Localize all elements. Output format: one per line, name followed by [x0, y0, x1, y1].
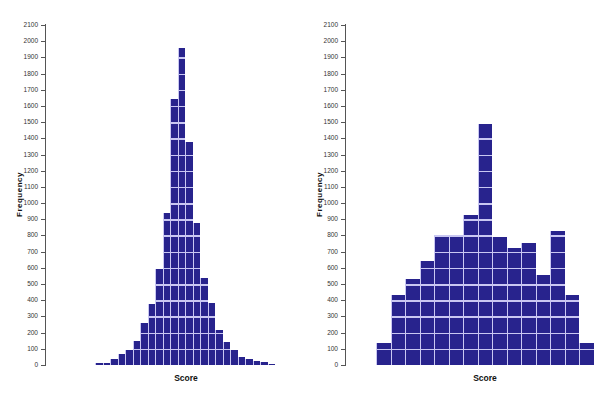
histogram-bar — [185, 142, 193, 365]
y-tick — [341, 155, 345, 156]
histogram-bar — [170, 99, 178, 365]
y-axis — [345, 24, 346, 366]
y-tick-label: 600 — [8, 264, 38, 272]
y-tick — [41, 90, 45, 91]
y-tick — [41, 138, 45, 139]
y-tick — [341, 57, 345, 58]
y-tick — [41, 187, 45, 188]
histogram-bar — [579, 343, 594, 365]
y-tick — [341, 25, 345, 26]
y-tick — [41, 57, 45, 58]
y-tick — [41, 300, 45, 301]
y-tick — [41, 268, 45, 269]
histogram-bar — [148, 304, 156, 365]
histogram-bar — [200, 278, 208, 365]
histogram-bar — [178, 48, 186, 365]
y-tick-label: 700 — [308, 248, 338, 256]
y-tick-label: 1400 — [308, 134, 338, 142]
y-tick-label: 2000 — [308, 37, 338, 45]
y-tick-label: 1300 — [308, 151, 338, 159]
y-tick-label: 1000 — [308, 199, 338, 207]
y-tick — [341, 316, 345, 317]
y-tick — [41, 25, 45, 26]
histogram-bar — [110, 359, 118, 365]
y-tick — [341, 252, 345, 253]
histogram-bar — [140, 323, 148, 365]
y-tick-label: 1900 — [308, 53, 338, 61]
histogram-bar — [118, 354, 126, 365]
y-tick-label: 0 — [8, 361, 38, 369]
y-tick-label: 1500 — [308, 118, 338, 126]
histogram-bar — [245, 359, 253, 365]
y-tick-label: 1200 — [308, 167, 338, 175]
histogram-bar — [260, 362, 268, 365]
y-tick-label: 200 — [308, 329, 338, 337]
y-tick — [41, 171, 45, 172]
histogram-bar — [405, 279, 420, 365]
y-tick-label: 1200 — [8, 167, 38, 175]
y-tick — [41, 235, 45, 236]
y-tick — [41, 122, 45, 123]
y-axis — [45, 24, 46, 366]
histogram-bar — [193, 223, 201, 365]
y-tick-label: 2100 — [8, 21, 38, 29]
x-axis-label: Score — [174, 373, 198, 383]
y-tick-label: 500 — [8, 280, 38, 288]
y-tick — [341, 41, 345, 42]
histogram-bar — [215, 330, 223, 365]
y-tick-label: 1600 — [308, 102, 338, 110]
y-tick — [41, 203, 45, 204]
y-tick-label: 1900 — [8, 53, 38, 61]
y-tick-label: 600 — [308, 264, 338, 272]
y-tick — [341, 235, 345, 236]
y-tick-label: 400 — [8, 296, 38, 304]
y-tick-label: 1300 — [8, 151, 38, 159]
y-tick — [341, 138, 345, 139]
histogram-bar — [253, 361, 261, 365]
y-tick — [341, 122, 345, 123]
y-tick-label: 400 — [308, 296, 338, 304]
y-tick — [341, 219, 345, 220]
y-tick-label: 0 — [308, 361, 338, 369]
y-tick — [41, 349, 45, 350]
histogram-bar — [268, 364, 276, 365]
y-tick — [341, 171, 345, 172]
histogram-bar — [155, 269, 163, 365]
y-tick — [41, 106, 45, 107]
y-tick — [41, 74, 45, 75]
y-tick — [41, 316, 45, 317]
histogram-bar — [238, 357, 246, 365]
y-tick-label: 1700 — [8, 86, 38, 94]
y-tick — [341, 333, 345, 334]
histogram-bar — [95, 363, 103, 365]
y-tick-label: 1800 — [308, 70, 338, 78]
histogram-bar — [420, 261, 435, 365]
histogram-bar — [391, 295, 406, 365]
right-histogram: Frequency 010020030040050060070080090010… — [300, 0, 609, 395]
y-tick — [341, 349, 345, 350]
y-tick-label: 200 — [8, 329, 38, 337]
y-tick-label: 900 — [308, 215, 338, 223]
y-tick — [341, 90, 345, 91]
y-tick-label: 300 — [308, 312, 338, 320]
histogram-bar — [536, 275, 551, 365]
histogram-bar — [463, 215, 478, 365]
x-axis-label: Score — [473, 373, 497, 383]
y-tick-label: 300 — [8, 312, 38, 320]
y-tick-label: 700 — [8, 248, 38, 256]
y-tick — [41, 284, 45, 285]
y-tick-label: 100 — [8, 345, 38, 353]
histogram-bar — [133, 341, 141, 365]
histogram-bar — [434, 235, 449, 365]
y-tick — [41, 252, 45, 253]
y-tick-label: 1600 — [8, 102, 38, 110]
y-tick-label: 1100 — [308, 183, 338, 191]
y-axis-label: Frequency — [15, 170, 24, 220]
y-tick — [41, 155, 45, 156]
y-tick-label: 500 — [308, 280, 338, 288]
y-tick-label: 1100 — [8, 183, 38, 191]
y-tick — [341, 365, 345, 366]
y-tick-label: 1000 — [8, 199, 38, 207]
histogram-bar — [103, 363, 111, 365]
histogram-bar — [163, 213, 171, 365]
